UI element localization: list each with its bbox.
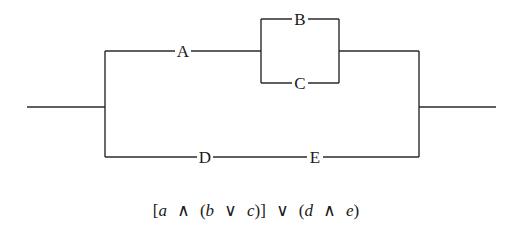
formula-token: )] <box>255 201 266 220</box>
switch-e-label: E <box>310 148 320 167</box>
formula-var-a: a <box>158 201 167 220</box>
switch-b-label: B <box>294 10 305 29</box>
formula-var-e: e <box>346 201 354 220</box>
formula-var-b: b <box>206 201 215 220</box>
switch-d-label: D <box>199 148 211 167</box>
switch-d: D <box>197 148 213 167</box>
switch-b: B <box>292 10 308 29</box>
switch-c-label: C <box>294 74 305 93</box>
formula-and-op: ∧ <box>177 201 189 220</box>
switch-c: C <box>292 74 308 93</box>
switch-a: A <box>175 42 191 61</box>
switching-circuit-diagram: A B C D E <box>0 0 512 230</box>
formula-token: ) <box>354 201 360 220</box>
formula-and-op: ∧ <box>323 201 335 220</box>
switch-a-label: A <box>177 42 190 61</box>
formula-or-op: ∨ <box>276 201 288 220</box>
formula-var-c: c <box>247 201 255 220</box>
boolean-formula: [a ∧ (b ∨ c)] ∨ (d ∧ e) <box>0 200 512 221</box>
switch-e: E <box>307 148 323 167</box>
formula-var-d: d <box>305 201 314 220</box>
formula-or-op: ∨ <box>224 201 236 220</box>
